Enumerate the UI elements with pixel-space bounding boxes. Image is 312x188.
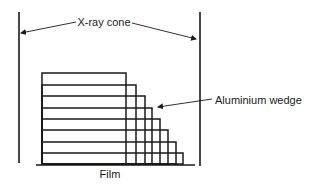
cone-label: X-ray cone (77, 16, 130, 28)
wedge-label: Aluminium wedge (215, 94, 302, 106)
wedge-step (42, 85, 136, 164)
x-ray-wedge-diagram: X-ray cone Film Aluminium wedge (0, 0, 312, 188)
wedge-step (42, 153, 183, 164)
cone-right-arrow (132, 23, 196, 39)
film-label: Film (100, 168, 121, 180)
wedge-arrow (158, 99, 212, 107)
aluminium-wedge (42, 73, 183, 164)
wedge-step (42, 130, 168, 164)
cone-left-arrow (21, 22, 76, 33)
